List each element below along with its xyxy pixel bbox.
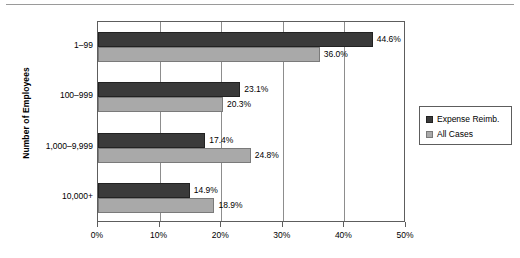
bar-value-label-1-0: 36.0% xyxy=(324,47,348,62)
x-tick-label-20%: 20% xyxy=(200,230,240,240)
bar-value-label-1-1: 20.3% xyxy=(227,97,251,112)
plot-area: 44.6%36.0%23.1%20.3%17.4%24.8%14.9%18.9% xyxy=(97,21,405,222)
x-tick-mark-20% xyxy=(220,222,221,227)
bar-0-2 xyxy=(98,133,205,148)
x-tick-label-10%: 10% xyxy=(139,230,179,240)
legend-label-all-cases: All Cases xyxy=(437,129,473,139)
bar-0-0 xyxy=(98,32,373,47)
bar-value-label-0-1: 23.1% xyxy=(244,82,268,97)
chart-legend: Expense Reimb. All Cases xyxy=(419,106,512,145)
bar-value-label-0-2: 17.4% xyxy=(209,133,233,148)
bar-value-label-1-2: 24.8% xyxy=(255,148,279,163)
x-tick-label-50%: 50% xyxy=(385,230,425,240)
x-tick-label-40%: 40% xyxy=(323,230,363,240)
y-tick-label-1000-9999: 1,000–9,999 xyxy=(46,141,93,151)
legend-label-expense-reimb: Expense Reimb. xyxy=(437,114,499,124)
legend-item-expense-reimb: Expense Reimb. xyxy=(426,112,511,126)
bar-1-0 xyxy=(98,47,320,62)
bar-chart-figure: Number of Employees 1–99 100–999 1,000–9… xyxy=(0,0,520,258)
x-tick-label-0%: 0% xyxy=(77,230,117,240)
x-tick-mark-0% xyxy=(97,222,98,227)
y-tick-label-1-99: 1–99 xyxy=(74,40,93,50)
x-tick-label-30%: 30% xyxy=(262,230,302,240)
bar-0-1 xyxy=(98,82,240,97)
bar-0-3 xyxy=(98,183,190,198)
legend-item-all-cases: All Cases xyxy=(426,127,511,141)
x-tick-mark-50% xyxy=(405,222,406,227)
legend-swatch-icon-all-cases xyxy=(426,131,433,138)
bar-1-2 xyxy=(98,148,251,163)
bar-1-1 xyxy=(98,97,223,112)
x-tick-mark-30% xyxy=(282,222,283,227)
bar-value-label-1-3: 18.9% xyxy=(218,198,242,213)
y-tick-label-100-999: 100–999 xyxy=(60,90,93,100)
x-tick-mark-40% xyxy=(343,222,344,227)
y-axis-title: Number of Employees xyxy=(21,53,31,173)
bar-value-label-0-0: 44.6% xyxy=(377,32,401,47)
bar-1-3 xyxy=(98,198,214,213)
x-tick-mark-10% xyxy=(159,222,160,227)
legend-swatch-icon-expense-reimb xyxy=(426,116,433,123)
y-tick-label-10000-plus: 10,000+ xyxy=(62,191,93,201)
bar-value-label-0-3: 14.9% xyxy=(194,183,218,198)
